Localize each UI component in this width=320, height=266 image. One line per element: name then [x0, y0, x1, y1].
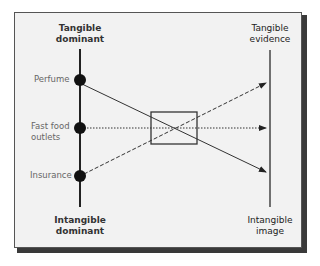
- left-bottom-label-line2: dominant: [48, 226, 112, 237]
- left-top-label-line1: Tangible: [50, 23, 110, 34]
- right-top-label: Tangible evidence: [240, 23, 300, 45]
- insurance-label: Insurance: [30, 170, 72, 181]
- left-top-label-line2: dominant: [50, 34, 110, 45]
- right-bottom-label-line1: Intangible: [240, 215, 300, 226]
- left-bottom-label: Intangible dominant: [48, 215, 112, 237]
- perfume-label-text: Perfume: [34, 74, 69, 85]
- fast-food-point: [74, 122, 86, 134]
- right-top-label-line2: evidence: [240, 34, 300, 45]
- insurance-point: [74, 170, 86, 182]
- fast-food-label-line2: outlets: [31, 132, 70, 143]
- right-top-label-line1: Tangible: [240, 23, 300, 34]
- fast-food-label-line1: Fast food: [31, 121, 70, 132]
- insurance-label-text: Insurance: [30, 170, 72, 181]
- left-bottom-label-line1: Intangible: [48, 215, 112, 226]
- fast-food-label: Fast food outlets: [31, 121, 70, 143]
- perfume-label: Perfume: [34, 74, 69, 85]
- left-top-label: Tangible dominant: [50, 23, 110, 45]
- perfume-point: [74, 74, 86, 86]
- right-bottom-label-line2: image: [240, 226, 300, 237]
- right-bottom-label: Intangible image: [240, 215, 300, 237]
